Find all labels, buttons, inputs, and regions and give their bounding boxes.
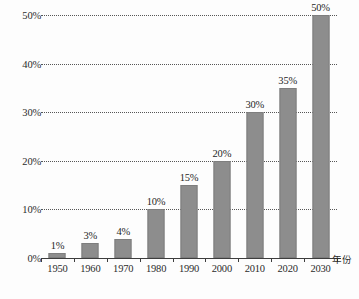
bar-slot[interactable]: 15% [173,15,206,258]
x-tick-label: 2030 [310,263,330,274]
x-tick-label: 1970 [113,263,133,274]
x-tick [205,258,206,262]
bar-value-label: 20% [213,148,232,159]
bar-value-label: 35% [278,75,297,86]
y-tick-label: 10% [22,204,41,215]
y-tick-label: 50% [22,10,41,21]
bar[interactable] [148,209,165,258]
x-tick [271,258,272,262]
x-axis-title: 年份 [332,252,352,266]
bar-value-label: 1% [51,240,65,251]
x-tick-label: 1990 [179,263,199,274]
x-tick-label: 2000 [212,263,232,274]
x-tick-label: 2010 [245,263,265,274]
bar-slot[interactable]: 3% [74,15,107,258]
bar[interactable] [279,88,296,258]
y-tick-label: 20% [22,155,41,166]
x-tick [238,258,239,262]
x-tick [304,258,305,262]
x-axis-line [41,258,341,259]
bar[interactable] [180,185,197,258]
x-tick-label: 1950 [47,263,67,274]
y-tick-label: 0% [27,253,41,264]
x-tick [41,258,42,262]
bar-slot[interactable]: 35% [271,15,304,258]
x-tick [173,258,174,262]
bar-value-label: 10% [147,196,166,207]
bar-slot[interactable]: 10% [140,15,173,258]
x-tick-label: 1960 [80,263,100,274]
bar-value-label: 3% [84,230,98,241]
bar-value-label: 50% [311,2,330,13]
bar-value-label: 4% [116,226,130,237]
bar-slot[interactable]: 4% [107,15,140,258]
bar-slot[interactable]: 20% [205,15,238,258]
bar-value-label: 30% [245,99,264,110]
bar[interactable] [246,112,263,258]
y-axis: 0%10%20%30%40%50% [0,0,44,299]
x-tick [74,258,75,262]
bar[interactable] [115,239,132,258]
bar[interactable] [312,15,329,258]
bar-slot[interactable]: 50% [304,15,337,258]
bar[interactable] [82,243,99,258]
bar-value-label: 15% [180,172,199,183]
plot-area: 1%3%4%10%15%20%30%35%50% [41,15,337,258]
bar-slot[interactable]: 1% [41,15,74,258]
bar[interactable] [213,161,230,258]
x-tick [107,258,108,262]
x-tick-label: 1980 [146,263,166,274]
x-tick-label: 2020 [278,263,298,274]
bar-slot[interactable]: 30% [238,15,271,258]
bar-chart: 0%10%20%30%40%50% 1%3%4%10%15%20%30%35%5… [0,0,359,299]
y-tick-label: 40% [22,58,41,69]
y-tick-label: 30% [22,107,41,118]
x-tick [140,258,141,262]
